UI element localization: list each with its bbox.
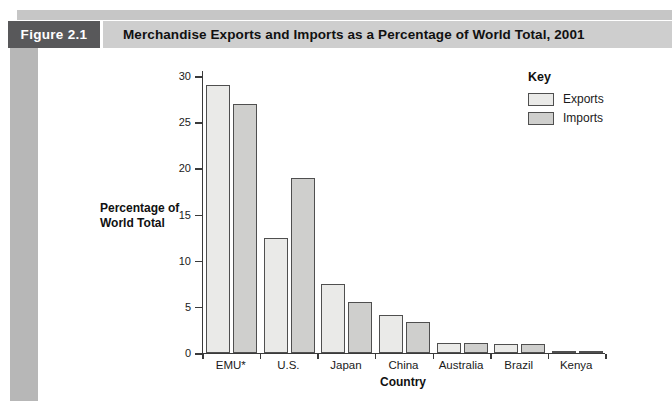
legend-row-exports: Exports [528,92,648,106]
y-axis-tick-0 [195,353,202,355]
bar-imports-brazil [521,344,545,353]
figure-panel: Figure 2.1 Merchandise Exports and Impor… [0,0,672,401]
bar-imports-australia [464,343,488,353]
legend-label-imports: Imports [563,111,603,125]
bar-group-emu [203,70,261,353]
figure-title-bar: Merchandise Exports and Imports as a Per… [103,21,672,48]
legend-title: Key [528,70,648,84]
bar-exports-japan [321,284,345,353]
y-axis-tick-label-0: 0 [163,347,191,359]
bar-group-australia [433,70,491,353]
figure-number-label: Figure 2.1 [21,27,88,42]
y-axis-tick-label-25: 25 [163,116,191,128]
bar-imports-us [291,178,315,353]
y-axis-tick-label-30: 30 [163,70,191,82]
y-axis-tick-label-10: 10 [163,255,191,267]
chart-legend: Key ExportsImports [528,70,648,130]
bar-exports-brazil [494,344,518,353]
y-axis-tick-15 [195,215,202,217]
y-axis-tick-10 [195,261,202,263]
legend-swatch-imports [528,112,554,125]
bar-group-japan [318,70,376,353]
bar-imports-china [406,322,430,353]
figure-number-box: Figure 2.1 [8,21,100,48]
y-axis-tick-25 [195,122,202,124]
bar-imports-emu [233,104,257,353]
y-axis-tick-label-20: 20 [163,162,191,174]
legend-row-imports: Imports [528,111,648,125]
bar-exports-kenya [552,351,576,353]
x-axis-title: Country [368,375,438,389]
y-axis-tick-5 [195,307,202,309]
top-accent-bar [17,10,672,20]
y-axis-tick-20 [195,168,202,170]
legend-label-exports: Exports [563,92,604,106]
x-category-label-kenya: Kenya [541,359,611,371]
bar-group-us [261,70,319,353]
bar-exports-us [264,238,288,353]
legend-swatch-exports [528,93,554,106]
y-axis-tick-label-5: 5 [163,301,191,313]
bar-group-china [376,70,434,353]
bar-exports-china [379,315,403,353]
bar-exports-emu [206,85,230,353]
y-axis-tick-30 [195,76,202,78]
bar-imports-japan [348,302,372,353]
left-accent-strip [10,48,38,401]
bar-exports-australia [437,343,461,353]
y-axis-tick-label-15: 15 [163,209,191,221]
bar-imports-kenya [579,351,603,353]
figure-title: Merchandise Exports and Imports as a Per… [123,27,585,42]
